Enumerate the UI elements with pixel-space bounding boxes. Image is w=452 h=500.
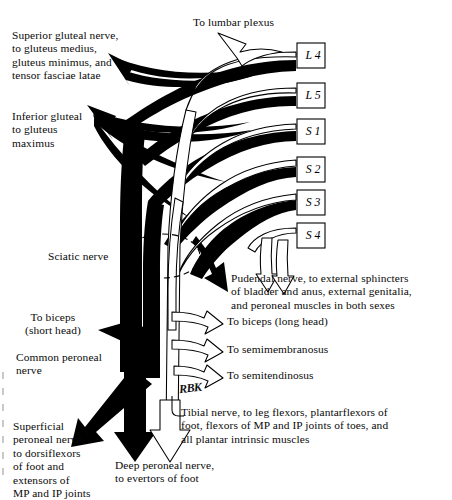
label-to-semimembranosus: To semimembranosus: [227, 343, 328, 356]
scan-artifact: [2, 452, 4, 459]
scan-artifact: [2, 372, 4, 379]
root-boxes-group: [297, 43, 325, 248]
root-s4-text: S 4: [306, 229, 321, 241]
artist-signature: RBK: [178, 380, 202, 397]
root-label-l4: L 4: [298, 45, 328, 65]
label-deep-peroneal-nerve: Deep peroneal nerve, to evertors of foot: [115, 459, 214, 486]
scan-artifact: [2, 388, 4, 395]
root-l5-text: L 5: [305, 89, 320, 101]
scan-artifact: [2, 468, 4, 475]
root-label-l5: L 5: [298, 85, 328, 105]
label-to-lumbar-plexus: To lumbar plexus: [193, 16, 274, 29]
semimembranosus-arrow: [172, 339, 223, 362]
label-to-biceps-long-head: To biceps (long head): [227, 315, 328, 328]
dark-fascicle-medial: [143, 201, 164, 330]
scan-artifact: [2, 420, 4, 427]
label-superficial-peroneal-nerve: Superficial peroneal nerve, to dorsiflex…: [13, 420, 91, 500]
label-superior-gluteal-nerve: Superior gluteal nerve, to gluteus mediu…: [12, 29, 118, 83]
root-s1-text: S 1: [306, 125, 321, 137]
label-sciatic-nerve: Sciatic nerve: [48, 250, 108, 263]
root-label-s1: S 1: [298, 121, 328, 141]
label-common-peroneal-nerve: Common peroneal nerve: [16, 351, 102, 378]
scan-artifact: [2, 436, 4, 443]
root-label-s4: S 4: [298, 225, 328, 245]
root-s3-text: S 3: [306, 196, 321, 208]
scan-artifact: [2, 404, 4, 411]
root-label-s2: S 2: [298, 159, 328, 179]
root-l4-text: L 4: [305, 49, 320, 61]
root-label-s3: S 3: [298, 192, 328, 212]
label-to-semitendinosus: To semitendinosus: [227, 369, 314, 382]
root-s2-text: S 2: [306, 163, 321, 175]
label-tibial-nerve: Tibial nerve, to leg flexors, plantarfle…: [181, 406, 388, 446]
label-to-biceps-short-head: To biceps (short head): [25, 311, 81, 338]
label-inferior-gluteal-nerve: Inferior gluteal to gluteus maximus: [12, 110, 82, 150]
lumbar-plexus-arrow: [218, 33, 282, 66]
label-pudendal-nerve: Pudendal nerve, to external sphincters o…: [231, 272, 412, 312]
